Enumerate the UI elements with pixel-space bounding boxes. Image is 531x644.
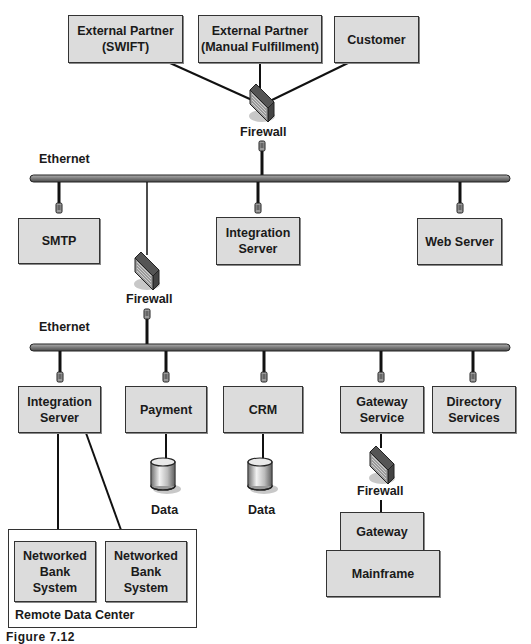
- mainframe-node: Mainframe: [326, 550, 440, 597]
- node-label: External Partner (SWIFT): [77, 23, 174, 55]
- firewall-icon: [369, 446, 395, 484]
- node-label: Gateway: [356, 524, 407, 540]
- remote-data-center-label: Remote Data Center: [15, 608, 134, 622]
- external-partner-swift-node: External Partner (SWIFT): [68, 15, 183, 63]
- database-icon: [151, 458, 181, 494]
- crm-node: CRM: [223, 386, 303, 433]
- payment-node: Payment: [125, 386, 207, 433]
- firewall-label-top: Firewall: [240, 125, 287, 139]
- figure-caption: Figure 7.12: [6, 630, 75, 644]
- crm-data-label: Data: [248, 503, 275, 517]
- node-label: Integration Server: [226, 225, 291, 257]
- node-label: Mainframe: [352, 566, 415, 582]
- node-label: CRM: [249, 402, 277, 418]
- node-label: SMTP: [42, 233, 77, 249]
- smtp-node: SMTP: [18, 218, 100, 264]
- external-partner-manual-node: External Partner (Manual Fulfillment): [198, 15, 322, 63]
- ethernet-label-upper: Ethernet: [39, 152, 90, 166]
- node-label: Networked Bank System: [23, 548, 87, 596]
- firewall-icon: [134, 252, 160, 290]
- remote-data-center-container: Networked Bank System Networked Bank Sys…: [8, 529, 197, 628]
- gateway-node: Gateway: [340, 512, 424, 551]
- gateway-service-node: Gateway Service: [340, 386, 424, 433]
- integration-server-dmz-node: Integration Server: [216, 217, 300, 265]
- networked-bank-system-node: Networked Bank System: [14, 541, 96, 602]
- node-label: Payment: [140, 402, 192, 418]
- ethernet-label-lower: Ethernet: [39, 320, 90, 334]
- node-label: Customer: [347, 32, 405, 48]
- customer-node: Customer: [334, 16, 419, 63]
- node-label: Directory Services: [447, 394, 502, 426]
- integration-server-internal-node: Integration Server: [18, 386, 101, 433]
- node-label: Web Server: [425, 234, 494, 250]
- node-label: Networked Bank System: [114, 548, 178, 596]
- firewall-label-middle: Firewall: [126, 292, 173, 306]
- payment-data-label: Data: [151, 503, 178, 517]
- ethernet-bus-lower: [30, 344, 510, 351]
- firewall-icon: [249, 84, 275, 122]
- directory-services-node: Directory Services: [432, 386, 516, 433]
- node-label: External Partner (Manual Fulfillment): [201, 23, 319, 55]
- networked-bank-system-node: Networked Bank System: [105, 541, 187, 602]
- firewall-label-gateway: Firewall: [357, 484, 404, 498]
- node-label: Integration Server: [27, 394, 92, 426]
- node-label: Gateway Service: [356, 394, 407, 426]
- web-server-node: Web Server: [417, 218, 502, 265]
- ethernet-bus-upper: [30, 175, 510, 182]
- database-icon: [248, 458, 278, 494]
